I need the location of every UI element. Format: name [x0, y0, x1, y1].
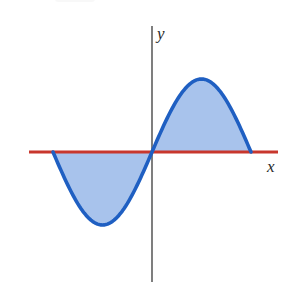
- function-plot: [0, 0, 295, 297]
- x-axis-label: x: [267, 158, 275, 175]
- y-axis-label: y: [157, 25, 165, 42]
